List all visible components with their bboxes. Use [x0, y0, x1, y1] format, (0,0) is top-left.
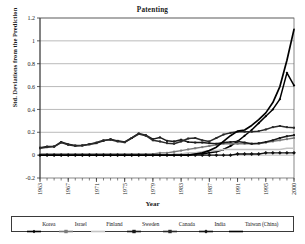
series-marker [173, 140, 175, 142]
chart-legend: KoreaIsraelFinlandSwedenCanadaIndiaTaiwa… [11, 216, 294, 232]
series-marker [265, 128, 267, 130]
series-marker [208, 140, 210, 142]
series-marker [258, 130, 260, 132]
series-marker [201, 146, 203, 148]
series-marker [271, 151, 275, 155]
y-axis-tick-label: 1.2 [28, 15, 36, 21]
y-axis-tick-label: -0.2 [26, 175, 36, 181]
series-marker [279, 139, 281, 141]
x-axis-tick-label: 2000 [291, 183, 297, 195]
series-marker [264, 151, 268, 155]
x-axis-tick-label: 1975 [122, 183, 128, 195]
series-marker [53, 146, 55, 148]
series-marker [285, 151, 289, 155]
series-marker [110, 139, 112, 141]
legend-swatch-icon [27, 221, 41, 228]
series-marker [145, 135, 147, 137]
series-marker [230, 141, 232, 143]
series-marker [293, 137, 295, 139]
legend-swatch-icon [91, 221, 105, 228]
series-marker [230, 132, 232, 134]
legend-item-finland[interactable]: Finland [91, 221, 123, 228]
x-axis-tick-label: 1979 [150, 183, 156, 195]
series-marker [286, 135, 288, 137]
series-marker [187, 141, 189, 143]
series-marker [230, 143, 232, 145]
chart-page: Patenting Std. Deviations from the Predi… [0, 0, 305, 244]
x-axis-tick-label: 1971 [94, 183, 100, 195]
legend-label: India [214, 221, 225, 227]
legend-swatch-icon [163, 221, 177, 228]
series-marker [88, 143, 90, 145]
series-marker [159, 136, 161, 138]
series-marker [214, 153, 218, 157]
series-marker [39, 147, 41, 149]
x-axis-tick-label: 1991 [235, 183, 241, 195]
x-axis-tick-label: 1995 [263, 183, 269, 195]
series-marker [244, 142, 246, 144]
series-marker [279, 137, 281, 139]
series-marker [194, 142, 196, 144]
legend-swatch-icon [199, 221, 213, 228]
legend-swatch-icon [59, 221, 73, 228]
series-marker [286, 126, 288, 128]
series-marker [67, 144, 69, 146]
legend-item-sweden[interactable]: Sweden [127, 221, 160, 228]
x-axis-tick-label: 1963 [37, 183, 43, 195]
series-marker [278, 151, 282, 155]
series-marker [194, 137, 196, 139]
series-marker [46, 146, 48, 148]
series-marker [159, 140, 161, 142]
legend-item-israel[interactable]: Israel [59, 221, 86, 228]
legend-item-taiwan-china[interactable]: Taiwan (China) [229, 221, 278, 228]
series-marker [229, 153, 233, 157]
legend-item-korea[interactable]: Korea [27, 221, 56, 228]
series-marker [208, 142, 210, 144]
y-axis-tick-label: 0.4 [28, 107, 36, 113]
series-marker [194, 147, 196, 149]
series-marker [286, 138, 288, 140]
series-marker [173, 151, 175, 153]
legend-label: Israel [75, 221, 87, 227]
series-marker [131, 137, 133, 139]
series-marker [187, 148, 189, 150]
series-marker [60, 142, 62, 144]
series-marker [180, 140, 182, 142]
y-axis-tick-label: 0 [32, 152, 35, 158]
series-marker [251, 131, 253, 133]
series-marker [293, 134, 295, 136]
series-marker [237, 143, 239, 145]
series-marker [166, 140, 168, 142]
legend-swatch-icon [229, 221, 243, 228]
series-marker [138, 133, 140, 135]
line-chart-plot: -0.200.20.40.60.811.21963196719711975197… [0, 0, 305, 244]
legend-item-india[interactable]: India [199, 221, 226, 228]
series-marker [152, 139, 154, 141]
series-line [40, 29, 294, 155]
y-axis-tick-label: 0.8 [28, 61, 36, 67]
series-marker [166, 142, 168, 144]
series-marker [201, 142, 203, 144]
legend-label: Taiwan (China) [245, 221, 278, 227]
series-marker [74, 145, 76, 147]
y-axis-tick-label: 1 [32, 38, 35, 44]
series-marker [81, 144, 83, 146]
legend-label: Canada [179, 221, 195, 227]
series-marker [251, 143, 253, 145]
legend-item-canada[interactable]: Canada [163, 221, 195, 228]
series-marker [244, 131, 246, 133]
series-marker [180, 150, 182, 152]
series-marker [265, 141, 267, 143]
legend-label: Finland [106, 221, 122, 227]
series-marker [222, 134, 224, 136]
legend-label: Sweden [142, 221, 159, 227]
series-marker [258, 142, 260, 144]
series-marker [279, 125, 281, 127]
series-marker [293, 127, 295, 129]
series-marker [95, 142, 97, 144]
series-marker [222, 153, 226, 157]
series-marker [272, 139, 274, 141]
x-axis-tick-label: 1983 [178, 183, 184, 195]
series-marker [124, 141, 126, 143]
y-axis-tick-label: 0.2 [28, 129, 36, 135]
